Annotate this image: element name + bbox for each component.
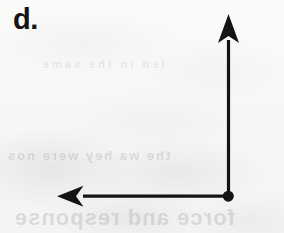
left-vector bbox=[57, 186, 228, 207]
figure-canvas: ted in the same the wa hey were nos forc… bbox=[0, 0, 284, 233]
up-vector bbox=[218, 14, 239, 196]
figure-label: d. bbox=[13, 5, 38, 34]
vector-diagram-graphic bbox=[0, 0, 284, 233]
left-vector-arrowhead bbox=[57, 186, 84, 207]
origin-point-dot bbox=[223, 191, 234, 202]
up-vector-arrowhead bbox=[218, 14, 239, 43]
